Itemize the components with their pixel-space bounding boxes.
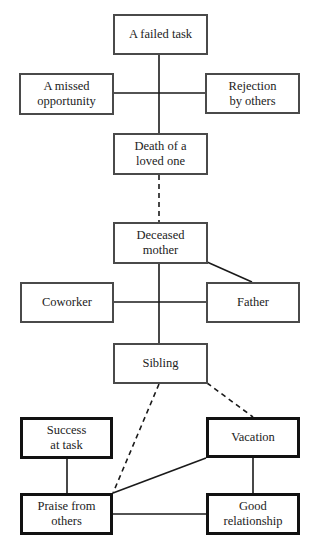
node-missed-opportunity: A missed opportunity — [19, 73, 114, 115]
node-deceased-mother: Deceased mother — [113, 222, 208, 264]
edge-praise-to-vacation — [113, 458, 206, 493]
node-sibling: Sibling — [113, 343, 208, 384]
node-label: Coworker — [42, 295, 92, 310]
node-vacation: Vacation — [206, 417, 300, 458]
node-label: A missed opportunity — [37, 79, 95, 109]
node-praise-from-others: Praise from others — [20, 493, 113, 535]
edge-sibling-to-vacation — [207, 383, 253, 417]
node-death-of-loved-one: Death of a loved one — [113, 133, 208, 175]
node-good-relationship: Good relationship — [206, 493, 300, 535]
node-failed-task: A failed task — [113, 14, 208, 55]
node-label: Success at task — [47, 423, 87, 453]
node-label: Father — [237, 295, 269, 310]
node-label: Deceased mother — [137, 228, 185, 258]
node-label: Death of a loved one — [134, 139, 186, 169]
node-label: Rejection by others — [229, 79, 277, 109]
node-coworker: Coworker — [20, 282, 114, 323]
node-label: Vacation — [231, 430, 275, 445]
node-label: A failed task — [129, 27, 192, 42]
node-label: Good relationship — [223, 499, 282, 529]
node-rejection-by-others: Rejection by others — [205, 73, 300, 114]
node-father: Father — [206, 282, 300, 323]
node-label: Praise from others — [38, 499, 96, 529]
node-success-at-task: Success at task — [20, 417, 113, 459]
edge-deceased-mother-to-father — [207, 262, 252, 282]
concept-diagram: A failed task A missed opportunity Rejec… — [0, 0, 316, 549]
node-label: Sibling — [142, 356, 178, 371]
edge-sibling-to-praise — [113, 384, 159, 493]
